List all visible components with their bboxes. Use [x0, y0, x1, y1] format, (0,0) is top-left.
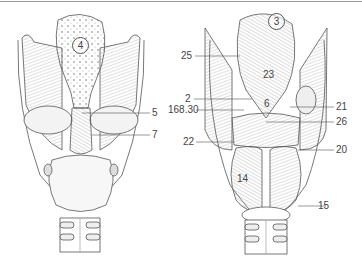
callout-25: 25	[181, 51, 192, 61]
right-larynx	[205, 14, 327, 254]
callout-5: 5	[152, 108, 158, 118]
callout-22: 22	[183, 137, 194, 147]
region-label-4: 4	[72, 37, 89, 54]
callout-168-30: 168.30	[168, 105, 199, 115]
callout-2: 2	[185, 94, 191, 104]
callout-21: 21	[336, 102, 347, 112]
callout-26: 26	[336, 117, 347, 127]
callout-15: 15	[318, 201, 329, 211]
callout-23: 23	[263, 70, 274, 80]
callout-14: 14	[237, 174, 248, 184]
larynx-illustration	[0, 0, 362, 261]
callout-20: 20	[336, 145, 347, 155]
callout-6: 6	[264, 99, 270, 109]
callout-7: 7	[152, 130, 158, 140]
region-label-3: 3	[268, 13, 285, 30]
